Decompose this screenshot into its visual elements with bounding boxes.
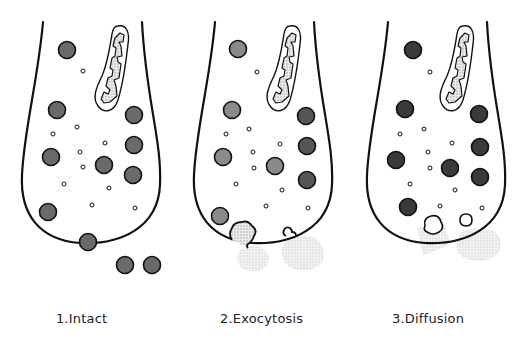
dense-core-granule [224,102,241,119]
small-vesicle [81,165,85,169]
dense-core-granule [125,167,142,184]
panel-diffusion [367,22,505,261]
dense-core-granule [126,107,143,124]
small-vesicle [247,127,251,131]
small-vesicle [280,188,284,192]
dense-core-granule [442,160,459,177]
emptied-granule-ghost [424,216,442,234]
dense-core-granule [49,102,66,119]
dense-core-granule [117,257,134,274]
small-vesicle [278,142,282,146]
dense-core-granule [126,137,143,154]
small-vesicle [428,70,432,74]
small-vesicle [450,141,454,145]
emptied-granule-ghost [460,214,472,226]
mitochondrion [95,26,128,111]
dense-core-granule [40,204,57,221]
dense-core-granule [388,152,405,169]
small-vesicle [75,125,79,129]
dense-core-granule [298,108,315,125]
small-vesicle [51,132,55,136]
dense-core-granule [299,138,316,155]
mitochondrion [267,26,300,111]
small-vesicle [107,186,111,190]
small-vesicle [234,182,238,186]
small-vesicle [255,70,259,74]
dense-core-granule [230,41,247,58]
mitochondrion [440,26,473,111]
small-vesicle [426,150,430,154]
small-vesicle [62,182,66,186]
released-content-cloud [282,236,325,271]
panel-label-intact: 1.Intact [56,311,107,326]
small-vesicle [453,188,457,192]
dense-core-granule [405,42,422,59]
dense-core-granule [43,149,60,166]
panel-label-exocytosis: 2.Exocytosis [220,311,303,326]
dense-core-granule [299,172,316,189]
panel-exocytosis [194,22,332,271]
small-vesicle [90,203,94,207]
dense-core-granule [80,234,97,251]
exocytosis-omega-figure [283,227,296,236]
dense-core-granule [144,257,161,274]
dense-core-granule [59,42,76,59]
dense-core-granule [400,199,417,216]
small-vesicle [252,166,256,170]
diffusion-cloud [457,228,501,261]
small-vesicle [103,141,107,145]
dense-core-granule [96,157,113,174]
cell-membrane [367,22,505,243]
small-vesicle [438,204,442,208]
dense-core-granule [267,158,284,175]
small-vesicle [398,132,402,136]
dense-core-granule [471,106,488,123]
released-content-cloud [238,246,270,272]
small-vesicle [251,150,255,154]
diagram-canvas [0,0,520,347]
small-vesicle [428,166,432,170]
small-vesicle [133,206,137,210]
dense-core-granule [212,208,229,225]
small-vesicle [264,204,268,208]
dense-core-granule [215,149,232,166]
dense-core-granule [472,169,489,186]
small-vesicle [224,132,228,136]
dense-core-granule [397,101,414,118]
panel-intact [22,22,161,274]
small-vesicle [306,206,310,210]
panel-label-diffusion: 3.Diffusion [392,311,464,326]
small-vesicle [408,182,412,186]
small-vesicle [480,206,484,210]
small-vesicle [81,69,85,73]
dense-core-granule [472,139,489,156]
small-vesicle [78,150,82,154]
small-vesicle [422,127,426,131]
